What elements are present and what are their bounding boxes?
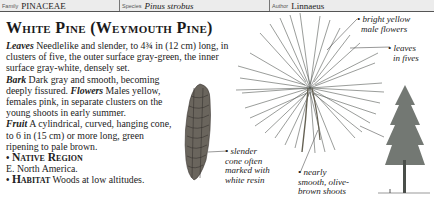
pine-cone-icon xyxy=(185,84,210,180)
annotation-line: in fives xyxy=(388,54,419,64)
annotation-leaves-in-fives: • leaves in fives xyxy=(388,44,419,63)
annotation-slender-cone: • slender cone often marked with white r… xyxy=(225,147,270,185)
annotation-line: male flowers xyxy=(357,25,410,35)
annotation-line: brown shoots xyxy=(298,187,349,197)
annotation-olive-brown-shoots: • nearly smooth, olive- brown shoots xyxy=(298,168,349,197)
annotation-male-flowers: • bright yellow male flowers xyxy=(357,15,410,34)
tree-silhouette-icon xyxy=(378,85,430,193)
annotation-line: white resin xyxy=(225,176,270,186)
needle-spray-icon xyxy=(236,13,384,153)
